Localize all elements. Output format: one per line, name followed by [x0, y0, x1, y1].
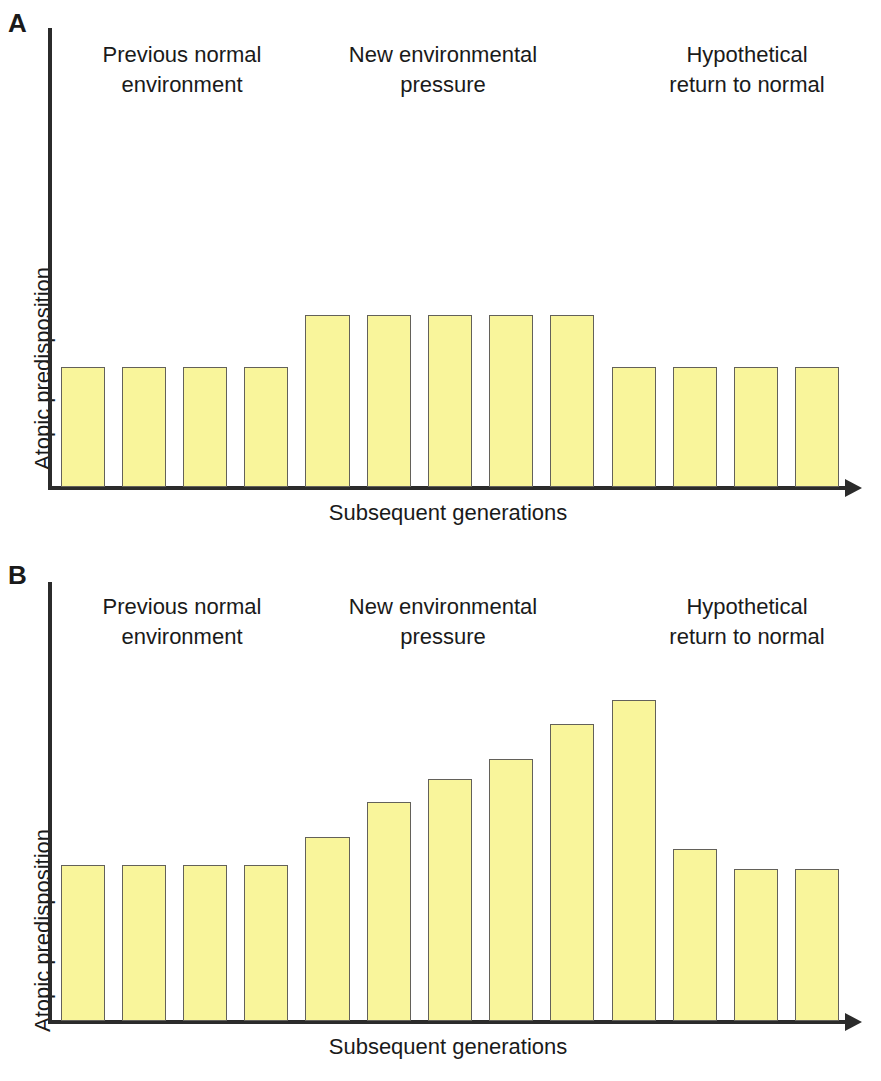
- bar: [734, 367, 778, 487]
- panel-b-region-label-3-line-1: Hypothetical: [686, 594, 807, 619]
- bar: [122, 367, 166, 487]
- bar: [367, 802, 411, 1021]
- bar: [244, 865, 288, 1021]
- bar: [122, 865, 166, 1021]
- bar: [612, 367, 656, 487]
- bar: [183, 865, 227, 1021]
- panel-a-region-label-2: New environmental pressure: [318, 40, 568, 99]
- panel-a-region-label-3-line-1: Hypothetical: [686, 42, 807, 67]
- panel-a-region-label-1-line-2: environment: [121, 72, 242, 97]
- panel-b-x-axis-label: Subsequent generations: [48, 1034, 848, 1060]
- bar: [367, 315, 411, 487]
- panel-a: A Atopic predisposition Previous normal …: [0, 0, 881, 540]
- bar: [795, 869, 839, 1021]
- bar: [305, 837, 349, 1021]
- panel-b: B Atopic predisposition Previous normal …: [0, 540, 881, 1081]
- panel-b-region-label-1-line-1: Previous normal: [103, 594, 262, 619]
- bar: [61, 865, 105, 1021]
- bar: [489, 759, 533, 1021]
- panel-b-plot-area: [52, 630, 848, 1021]
- bar: [673, 367, 717, 487]
- panel-a-region-label-3-line-2: return to normal: [669, 72, 824, 97]
- bar: [61, 367, 105, 487]
- panel-a-x-axis-label: Subsequent generations: [48, 500, 848, 526]
- panel-a-region-label-2-line-1: New environmental: [349, 42, 537, 67]
- panel-a-region-label-3: Hypothetical return to normal: [622, 40, 872, 99]
- bar: [734, 869, 778, 1021]
- bar: [428, 315, 472, 487]
- bar: [795, 367, 839, 487]
- bar: [550, 724, 594, 1021]
- panel-a-region-label-1-line-1: Previous normal: [103, 42, 262, 67]
- bar: [489, 315, 533, 487]
- bar: [428, 779, 472, 1021]
- panel-a-region-label-1: Previous normal environment: [62, 40, 302, 99]
- panel-b-letter: B: [8, 562, 27, 588]
- bar: [673, 849, 717, 1021]
- bar: [612, 700, 656, 1021]
- panel-a-plot-area: [52, 186, 848, 487]
- bar: [550, 315, 594, 487]
- bar: [305, 315, 349, 487]
- bar: [244, 367, 288, 487]
- bar: [183, 367, 227, 487]
- panel-b-region-label-2-line-1: New environmental: [349, 594, 537, 619]
- panel-a-letter: A: [8, 10, 27, 36]
- panel-a-region-label-2-line-2: pressure: [400, 72, 486, 97]
